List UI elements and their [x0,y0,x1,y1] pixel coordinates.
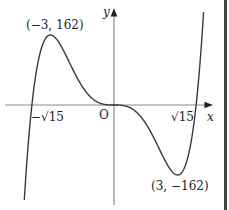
x-axis-label: x [207,110,214,124]
function-graph: y x O −√15 √15 (−3, 162) (3, −162) [0,0,229,210]
y-axis-label: y [102,5,110,19]
min-point-label: (3, −162) [151,179,209,193]
frame-border [224,0,227,210]
max-point-label: (−3, 162) [26,18,84,32]
origin-label: O [99,108,109,122]
pos-root-label: √15 [171,110,194,124]
neg-root-label: −√15 [31,110,64,124]
